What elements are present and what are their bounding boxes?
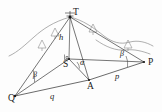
segment-T-P — [70, 17, 144, 62]
measure-label-h: h — [59, 32, 63, 42]
measure-label-p: p — [114, 71, 119, 81]
hill-marker-icon — [51, 28, 59, 39]
survey-diagram-figure: T S A P Q h p q α β β — [0, 0, 162, 112]
vertex-dot-T — [69, 16, 72, 19]
hill-marker-icon — [38, 40, 46, 51]
vertex-dot-S — [68, 58, 70, 60]
terrain-contours — [9, 17, 153, 56]
vertex-dot-P — [143, 61, 145, 63]
vertex-label-Q: Q — [8, 93, 15, 103]
vertex-dots — [14, 16, 145, 98]
vertex-label-S: S — [63, 59, 68, 69]
segment-T-S-height — [69, 17, 70, 59]
angle-label-beta-Q: β — [32, 70, 37, 79]
vertex-label-A: A — [87, 81, 94, 91]
diagram-canvas: T S A P Q h p q α β β — [0, 0, 162, 112]
segment-T-Q — [15, 17, 70, 96]
vertex-label-T: T — [73, 7, 79, 17]
measure-labels: h p q — [50, 32, 119, 101]
sight-lines-from-tower — [15, 17, 144, 96]
contour-right-ridge — [70, 17, 153, 46]
measure-label-q: q — [50, 91, 55, 101]
vertex-label-P: P — [148, 57, 153, 67]
angle-label-beta-P: β — [119, 49, 124, 58]
vertex-labels: T S A P Q — [8, 7, 153, 103]
terrain-hill-markers — [38, 24, 132, 51]
